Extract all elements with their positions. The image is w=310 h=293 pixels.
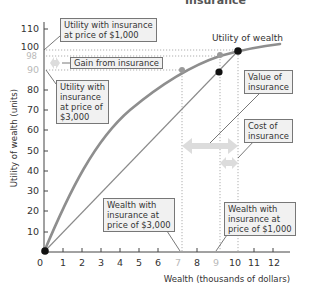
annotation-line: Cost of — [248, 121, 289, 131]
point-insured-1000 — [217, 52, 223, 58]
x-tick-7: 7 — [175, 257, 181, 268]
y-ticks — [44, 29, 48, 232]
y-tick-10: 10 — [27, 226, 39, 237]
gain-from-insurance-arrow — [50, 57, 60, 69]
cost-of-insurance-arrow — [220, 157, 238, 169]
point-origin — [41, 247, 49, 255]
x-tick-1: 1 — [60, 257, 66, 268]
x-tick-3: 3 — [98, 257, 104, 268]
y-tick-40: 40 — [27, 165, 39, 176]
annotation-line: $3,000 — [60, 112, 105, 122]
curve-label-utility-of-wealth: Utility of wealth — [212, 33, 283, 43]
x-tick-0: 0 — [37, 257, 43, 268]
y-tick-90: 90 — [27, 64, 39, 75]
annotation-line: at price of $1,000 — [64, 30, 153, 40]
annotation-line: insurance at — [228, 214, 292, 224]
y-tick-98: 98 — [26, 51, 37, 61]
y-tick-30: 30 — [27, 185, 39, 196]
annotation-line: price of $3,000 — [107, 220, 171, 230]
annotation-line: insurance — [60, 92, 105, 102]
point-utility-of-wealth — [234, 47, 242, 55]
y-tick-110: 110 — [21, 23, 39, 34]
utility-of-wealth-chart: 110 100 98 90 80 70 60 50 40 30 20 10 0 … — [0, 0, 310, 293]
x-tick-2: 2 — [79, 257, 85, 268]
y-tick-50: 50 — [27, 145, 39, 156]
annotation-value-of-insurance: Value of insurance — [244, 70, 293, 94]
x-tick-4: 4 — [117, 257, 123, 268]
point-expected-utility — [215, 68, 222, 75]
x-tick-12: 12 — [268, 257, 280, 268]
annotation-wealth-3000: Wealth with insurance at price of $3,000 — [103, 198, 175, 232]
annotation-utility-3000: Utility with insurance at price of $3,00… — [56, 80, 109, 124]
y-axis-title: Utility of wealth (units) — [9, 89, 19, 187]
x-ticks — [63, 248, 273, 252]
annotation-line: Gain from insurance — [74, 58, 159, 68]
point-insured-3000 — [179, 67, 185, 73]
annotation-line: Utility with insurance — [64, 20, 153, 30]
y-tick-70: 70 — [27, 104, 39, 115]
y-tick-60: 60 — [27, 124, 39, 135]
annotation-line: Wealth with — [228, 204, 292, 214]
annotation-line: Utility with — [60, 82, 105, 92]
y-tick-80: 80 — [27, 84, 39, 95]
annotation-line: price of $1,000 — [228, 224, 292, 234]
y-tick-20: 20 — [27, 205, 39, 216]
x-tick-9: 9 — [213, 257, 219, 268]
annotation-gain-from-insurance: Gain from insurance — [70, 57, 163, 69]
annotation-cost-of-insurance: Cost of insurance — [244, 119, 293, 143]
annotation-wealth-1000: Wealth with insurance at price of $1,000 — [224, 202, 296, 236]
x-tick-11: 11 — [248, 257, 260, 268]
value-of-insurance-arrow — [182, 138, 238, 154]
x-tick-8: 8 — [194, 257, 200, 268]
annotation-line: insurance at — [107, 210, 171, 220]
annotation-line: insurance — [248, 82, 289, 92]
x-axis-title: Wealth (thousands of dollars) — [164, 274, 290, 284]
annotation-line: insurance — [248, 131, 289, 141]
annotation-line: at price of — [60, 102, 105, 112]
x-tick-6: 6 — [155, 257, 161, 268]
x-tick-10: 10 — [229, 257, 241, 268]
x-tick-5: 5 — [136, 257, 142, 268]
annotation-line: Value of — [248, 72, 289, 82]
annotation-line: Wealth with — [107, 200, 171, 210]
annotation-utility-1000: Utility with insurance at price of $1,00… — [60, 18, 157, 42]
